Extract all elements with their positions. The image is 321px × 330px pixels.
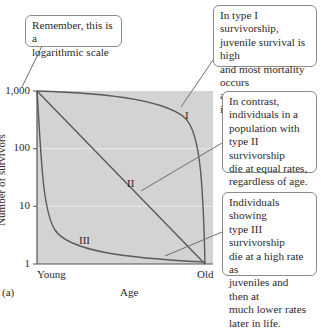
x-tick-label-old: Old (197, 268, 214, 280)
callout-line: In type I survivorship, (220, 9, 310, 36)
callout-line: and most mortality occurs (220, 63, 310, 90)
callout-line: Individuals showing (229, 196, 310, 223)
callout-line: type II survivorship (229, 135, 310, 162)
y-tick-label-1000: 1,000 (2, 84, 30, 96)
callout-line: regardless of age. (229, 175, 310, 188)
callout-line: population with (229, 122, 310, 135)
x-tick-label-young: Young (37, 268, 66, 280)
callout-log-note: Remember, this is a logarithmic scale (25, 15, 122, 47)
panel-label: (a) (2, 286, 14, 298)
callout-line: type III survivorship (229, 223, 310, 250)
callout-line: individuals in a (229, 108, 310, 121)
callout-line: die at a high rate as (229, 250, 310, 277)
curve-label-II: II (127, 177, 134, 189)
y-axis-label-text: Number of survivors (0, 134, 7, 226)
callout-line: logarithmic scale (32, 46, 115, 59)
callout-line: juveniles and then at (229, 276, 310, 303)
callout-type2: In contrast, individuals in a population… (222, 91, 317, 173)
callout-line: Remember, this is a (32, 19, 115, 46)
curve-label-III: III (79, 234, 90, 246)
callout-type1: In type I survivorship, juvenile surviva… (213, 5, 317, 67)
callout-line: In contrast, (229, 95, 310, 108)
callout-line: much lower rates (229, 303, 310, 316)
callout-line: juvenile survival is high (220, 36, 310, 63)
callout-type3: Individuals showing type III survivorshi… (222, 192, 317, 276)
callout-line: later in life. (229, 317, 310, 330)
curve-label-I: I (185, 109, 189, 121)
y-tick-label-1: 1 (2, 257, 30, 269)
x-axis-label: Age (120, 286, 138, 298)
callout-line: die at equal rates, (229, 162, 310, 175)
